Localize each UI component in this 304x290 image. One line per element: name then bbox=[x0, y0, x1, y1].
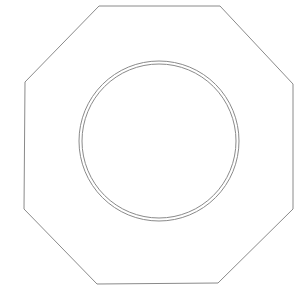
diagram-canvas bbox=[0, 0, 304, 290]
background bbox=[0, 0, 304, 290]
